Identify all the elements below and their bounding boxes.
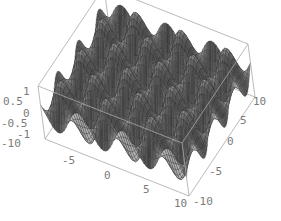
x-tick-10: 10 (174, 197, 187, 210)
y-tick-0: 0 (227, 135, 234, 148)
y-tick-neg10: -10 (193, 195, 213, 208)
y-tick-5: 5 (240, 114, 247, 127)
x-tick-0: 0 (104, 169, 111, 182)
x-tick-5: 5 (143, 183, 150, 196)
z-tick-1: 1 (23, 85, 30, 98)
x-tick-neg10: -10 (1, 137, 21, 150)
z-tick-0.5: 0.5 (3, 95, 23, 108)
surface-plot: 1 0.5 0 -0.5 -1 -10 -5 0 5 10 -10 -5 0 5… (0, 0, 281, 221)
y-tick-neg5: -5 (209, 165, 222, 178)
x-tick-neg5: -5 (62, 154, 75, 167)
y-tick-10: 10 (253, 95, 266, 108)
